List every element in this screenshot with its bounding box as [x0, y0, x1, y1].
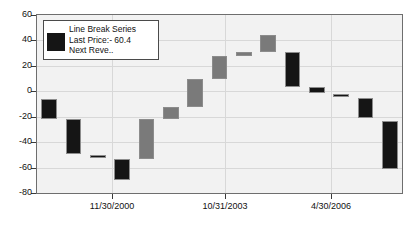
gridline — [37, 117, 402, 118]
x-tick-label: 11/30/2000 — [90, 201, 134, 211]
y-tick-label: -60 — [0, 163, 32, 172]
y-tick-label: -40 — [0, 137, 32, 146]
price-bar — [358, 98, 374, 118]
price-bar — [260, 35, 276, 52]
legend-text: Line Break Series Last Price:- 60.4 Next… — [69, 24, 154, 56]
price-bar — [41, 99, 57, 119]
price-bar — [66, 119, 82, 153]
price-bar — [187, 79, 203, 107]
legend-swatch-icon — [47, 33, 65, 51]
gridline — [37, 142, 402, 143]
y-tick-label: -80 — [0, 188, 32, 197]
price-bar — [114, 159, 130, 181]
legend-series-name: Line Break Series — [69, 24, 154, 35]
gridline — [37, 91, 402, 92]
price-bar — [139, 119, 155, 158]
price-bar — [285, 52, 301, 88]
gridline — [331, 15, 332, 193]
price-bar — [212, 56, 228, 79]
legend-last-price: Last Price:- 60.4 — [69, 35, 154, 46]
y-tick-label: 20 — [0, 61, 32, 70]
line-break-chart: 6040200-20-40-60-80 11/30/200010/31/2003… — [0, 0, 410, 228]
chart-legend: Line Break Series Last Price:- 60.4 Next… — [43, 20, 159, 60]
price-bar — [236, 52, 252, 56]
price-bar — [90, 155, 106, 158]
gridline — [225, 15, 226, 193]
x-tick-mark — [331, 194, 332, 199]
price-bar — [163, 107, 179, 120]
y-tick-label: 0 — [0, 86, 32, 95]
x-tick-mark — [112, 194, 113, 199]
y-tick-label: -20 — [0, 112, 32, 121]
x-tick-mark — [225, 194, 226, 199]
x-tick-label: 10/31/2003 — [202, 201, 247, 211]
y-tick-label: 60 — [0, 10, 32, 19]
y-tick-label: 40 — [0, 35, 32, 44]
price-bar — [309, 87, 325, 93]
price-bar — [382, 121, 398, 169]
price-bar — [333, 94, 349, 97]
gridline — [37, 168, 402, 169]
legend-next-reversal: Next Reve.. — [69, 45, 154, 56]
x-tick-label: 4/30/2006 — [311, 201, 351, 211]
